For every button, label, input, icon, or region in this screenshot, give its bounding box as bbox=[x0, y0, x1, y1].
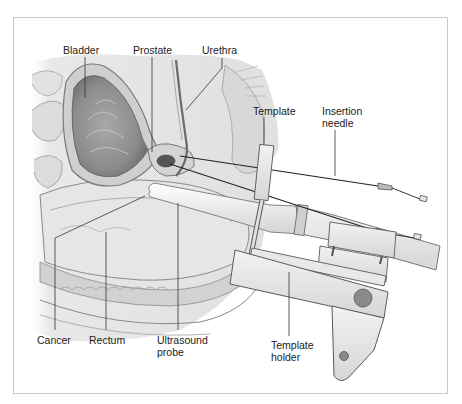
label-rectum: Rectum bbox=[89, 334, 125, 346]
label-template: Template bbox=[253, 105, 296, 117]
label-template-holder: Template holder bbox=[271, 339, 314, 363]
label-urethra: Urethra bbox=[202, 44, 237, 56]
label-prostate: Prostate bbox=[133, 44, 172, 56]
pivot bbox=[340, 352, 349, 361]
label-bladder: Bladder bbox=[63, 44, 99, 56]
label-ultrasound-probe: Ultrasound probe bbox=[157, 334, 208, 358]
label-cancer: Cancer bbox=[37, 334, 71, 346]
knob bbox=[354, 289, 372, 307]
label-insertion-needle: Insertion needle bbox=[322, 105, 362, 129]
